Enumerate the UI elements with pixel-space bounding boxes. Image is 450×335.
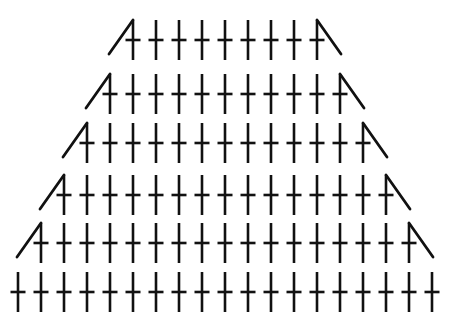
figure-canvas xyxy=(0,0,450,335)
glyph-row xyxy=(126,20,325,60)
glyph-array-svg xyxy=(0,0,450,335)
